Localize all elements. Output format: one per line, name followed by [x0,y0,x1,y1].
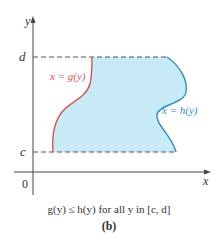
upper-bound-label-d: d [19,49,26,65]
x-axis-label: x [203,174,208,189]
origin-label: 0 [22,177,28,192]
region-between-curves-diagram: y x 0 d c x = g(y) x = h(y) g(y) ≤ h(y) … [0,0,218,239]
y-axis-arrow-icon [31,16,36,23]
curve-h-label: x = h(y) [162,104,198,116]
y-axis-label: y [25,14,30,29]
curve-g-label: x = g(y) [50,70,86,82]
figure-caption: g(y) ≤ h(y) for all y in [c, d] [0,203,218,215]
lower-bound-label-c: c [20,144,26,160]
figure-sublabel: (b) [0,219,218,234]
